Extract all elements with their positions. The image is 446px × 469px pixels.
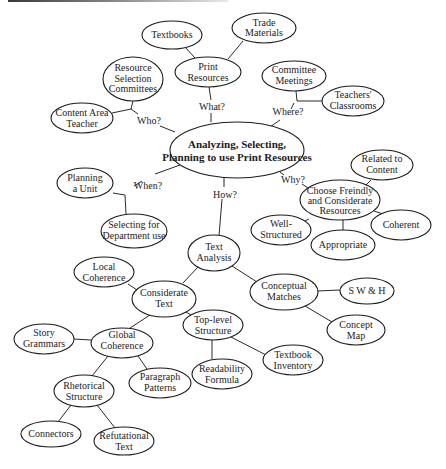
node-label: Story <box>33 327 55 338</box>
node-label: Text <box>115 441 133 452</box>
edge-story-global <box>74 339 91 340</box>
node-label: Coherence <box>83 272 126 283</box>
node-label: Resources <box>187 72 228 83</box>
edge-toplevel-inventory <box>231 337 266 355</box>
node-label: Connectors <box>28 428 74 439</box>
edge-who-junction <box>131 109 138 114</box>
node-label: Resource <box>114 62 152 73</box>
node-trade-materials[interactable]: Trade Materials <box>232 13 296 43</box>
edge-global-rhetorical <box>92 356 108 376</box>
node-label: Coherence <box>101 340 144 351</box>
node-textbooks[interactable]: Textbooks <box>142 21 202 49</box>
node-label: Related to <box>362 153 403 164</box>
node-content-area-teacher[interactable]: Content Area Teacher <box>51 103 113 133</box>
node-appropriate[interactable]: Appropriate <box>311 230 375 260</box>
edge-label-how: How? <box>213 189 237 200</box>
node-label: S W & H <box>348 285 385 296</box>
node-label: Patterns <box>144 382 176 393</box>
node-label: Textbook <box>274 349 312 360</box>
central-line-1: Analyzing, Selecting, <box>188 138 286 150</box>
node-planning-a-unit[interactable]: Planning a Unit <box>57 168 113 198</box>
node-label: Resources <box>319 205 360 216</box>
node-local-coherence[interactable]: Local Coherence <box>74 257 134 287</box>
edge-when-central <box>155 165 180 174</box>
edge-local-considerate <box>128 284 137 290</box>
node-label: Coherent <box>383 219 420 230</box>
node-label: Teachers' <box>334 89 371 100</box>
node-teachers-classrooms[interactable]: Teachers' Classrooms <box>322 86 384 116</box>
edge-label-where: Where? <box>272 106 304 117</box>
node-story-grammars[interactable]: Story Grammars <box>14 324 74 354</box>
node-label: Textbooks <box>151 29 193 40</box>
node-label: Structure <box>195 325 232 336</box>
edge-trade-print <box>228 41 243 59</box>
edge-label-why: Why? <box>281 174 305 185</box>
node-selecting-for-department[interactable]: Selecting for Department use <box>101 214 167 248</box>
node-label: Paragraph <box>140 371 181 382</box>
node-label: Teacher <box>66 118 98 129</box>
node-text-analysis[interactable]: Text Analysis <box>188 235 240 271</box>
node-print-resources[interactable]: Print Resources <box>175 57 241 87</box>
node-concept-map[interactable]: Concept Map <box>327 315 385 345</box>
node-label: Appropriate <box>319 239 368 250</box>
node-label: Text <box>155 298 173 309</box>
node-connectors[interactable]: Connectors <box>21 421 81 447</box>
node-coherent[interactable]: Coherent <box>371 210 431 240</box>
edge-textbooks-print <box>185 47 195 58</box>
node-label: Global <box>108 329 135 340</box>
node-label: Selecting for <box>108 219 160 230</box>
node-label: Inventory <box>274 360 313 371</box>
node-label: Formula <box>205 374 239 385</box>
edge-rhetorical-refutational <box>97 405 115 428</box>
node-label: Conceptual <box>261 280 307 291</box>
node-label: Planning <box>67 172 103 183</box>
node-resource-selection-committees[interactable]: Resource Selection Committees <box>103 57 163 101</box>
edge-considerate-global <box>130 315 150 328</box>
node-global-coherence[interactable]: Global Coherence <box>91 328 153 358</box>
node-conceptual-matches[interactable]: Conceptual Matches <box>250 274 318 310</box>
edge-meetings-where <box>296 91 297 101</box>
node-textbook-inventory[interactable]: Textbook Inventory <box>263 345 323 375</box>
node-committee-meetings[interactable]: Committee Meetings <box>262 61 326 91</box>
node-well-structured[interactable]: Well- Structured <box>251 215 311 245</box>
edge-conceptual-conceptmap <box>305 306 332 322</box>
node-label: Structure <box>66 391 103 402</box>
node-choose-resources[interactable]: Choose Freindly and Considerate Resource… <box>300 180 380 220</box>
node-label: Top-level <box>194 314 232 325</box>
node-related-to-content[interactable]: Related to Content <box>351 150 413 180</box>
node-label: Well- <box>270 218 292 229</box>
node-label: Local <box>93 261 116 272</box>
node-label: Structured <box>260 229 302 240</box>
edge-teacher-who <box>112 109 131 113</box>
node-label: Readability <box>199 363 245 374</box>
node-rhetorical-structure[interactable]: Rhetorical Structure <box>54 375 114 407</box>
node-considerate-text[interactable]: Considerate Text <box>132 281 196 317</box>
node-top-level-structure[interactable]: Top-level Structure <box>183 310 243 340</box>
node-label: Materials <box>245 27 283 38</box>
node-central[interactable]: Analyzing, Selecting, Planning to use Pr… <box>162 122 312 178</box>
edge-label-when: When? <box>134 180 163 191</box>
edge-rhetorical-connectors <box>58 405 71 422</box>
node-refutational-text[interactable]: Refutational Text <box>94 427 154 455</box>
edge-how-textanalysis <box>219 199 222 236</box>
edge-global-paragraph <box>138 356 147 369</box>
node-paragraph-patterns[interactable]: Paragraph Patterns <box>129 368 191 398</box>
node-label: Committee <box>272 64 317 75</box>
edge-conceptual-swh <box>317 290 340 291</box>
edge-dept-when <box>125 195 126 214</box>
edge-committees-who <box>131 101 133 109</box>
node-readability-formula[interactable]: Readability Formula <box>192 359 252 389</box>
node-label: Grammars <box>23 338 65 349</box>
node-swh[interactable]: S W & H <box>340 278 394 304</box>
edge-textanalysis-considerate <box>183 267 198 283</box>
edge-print-what <box>209 87 211 100</box>
node-label: Text <box>205 241 223 252</box>
node-label: Classrooms <box>330 100 377 111</box>
node-label: Concept <box>339 319 373 330</box>
edge-unit-when <box>113 193 125 195</box>
node-label: Considerate <box>140 287 188 298</box>
node-label: Content <box>366 164 398 175</box>
edge-label-who: Who? <box>137 115 161 126</box>
node-label: Matches <box>267 291 301 302</box>
central-line-2: Planning to use Print Resources <box>162 151 312 163</box>
